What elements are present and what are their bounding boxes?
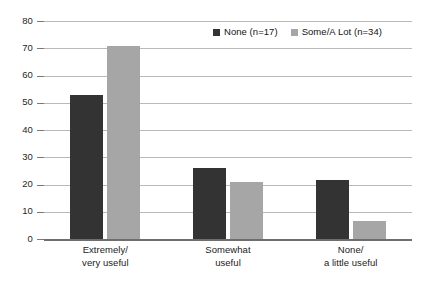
category-label-line1: None/ [338, 244, 364, 255]
y-axis-tick-label: 80 [7, 16, 33, 26]
bar[interactable] [316, 180, 349, 239]
category-label-line1: Extremely/ [83, 244, 128, 255]
legend-label: Some/A Lot (n=34) [302, 27, 382, 37]
bars-layer [44, 21, 412, 239]
bar[interactable] [230, 182, 263, 239]
legend-swatch-icon [213, 29, 220, 36]
category-label-line2: useful [167, 257, 290, 270]
y-axis-tick-mark [37, 76, 44, 77]
x-axis-category-labels: Extremely/very usefulSomewhatusefulNone/… [44, 244, 412, 284]
chart-legend: None (n=17) Some/A Lot (n=34) [213, 25, 382, 39]
y-axis-tick-label: 70 [7, 43, 33, 53]
legend-label: None (n=17) [224, 27, 278, 37]
bar[interactable] [107, 46, 140, 239]
y-axis-tick-label: 20 [7, 179, 33, 189]
bar-chart: 01020304050607080 None (n=17) Some/A Lot… [0, 0, 425, 286]
bar[interactable] [70, 95, 103, 239]
category-label-line2: very useful [44, 257, 167, 270]
y-axis-tick-label: 0 [7, 234, 33, 244]
x-axis-category-label: None/a little useful [289, 244, 412, 269]
bar[interactable] [353, 221, 386, 239]
y-axis-tick-mark [37, 185, 44, 186]
y-axis-tick-label: 10 [7, 206, 33, 216]
y-axis-tick-mark [37, 212, 44, 213]
x-axis-category-label: Somewhatuseful [167, 244, 290, 269]
x-axis-category-label: Extremely/very useful [44, 244, 167, 269]
axis-baseline [44, 239, 412, 241]
y-axis: 01020304050607080 [0, 0, 44, 286]
legend-swatch-icon [291, 29, 298, 36]
category-label-line2: a little useful [289, 257, 412, 270]
legend-item-none[interactable]: None (n=17) [213, 27, 278, 37]
legend-item-some-a-lot[interactable]: Some/A Lot (n=34) [291, 27, 382, 37]
y-axis-tick-mark [37, 48, 44, 49]
plot-area [44, 21, 412, 239]
y-axis-tick-mark [37, 239, 44, 240]
bar[interactable] [193, 168, 226, 239]
y-axis-tick-label: 60 [7, 70, 33, 80]
y-axis-tick-label: 40 [7, 125, 33, 135]
y-axis-tick-label: 50 [7, 97, 33, 107]
y-axis-tick-mark [37, 21, 44, 22]
y-axis-tick-mark [37, 103, 44, 104]
y-axis-tick-label: 30 [7, 152, 33, 162]
category-label-line1: Somewhat [205, 244, 250, 255]
y-axis-tick-mark [37, 157, 44, 158]
y-axis-tick-mark [37, 130, 44, 131]
